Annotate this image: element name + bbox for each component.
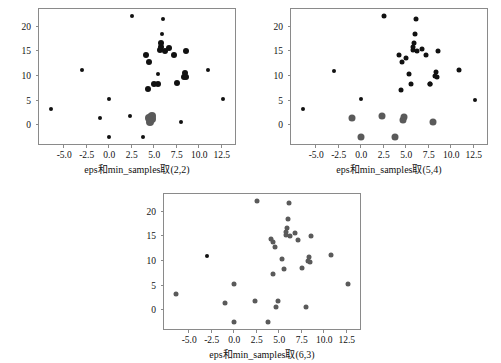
x-tick-label: 7.5 bbox=[296, 335, 308, 346]
y-tick-mark bbox=[161, 235, 164, 236]
panel-bottom-axes: -5.0-2.50.02.55.07.510.012.505101520 bbox=[163, 193, 361, 330]
data-point bbox=[401, 113, 408, 120]
y-tick-mark bbox=[161, 260, 164, 261]
data-point bbox=[276, 299, 281, 304]
data-point bbox=[408, 82, 413, 87]
x-tick-label: 5.0 bbox=[273, 335, 285, 346]
data-point bbox=[345, 281, 350, 286]
data-point bbox=[183, 48, 189, 54]
data-point bbox=[232, 320, 237, 325]
x-tick-mark bbox=[188, 330, 189, 333]
x-tick-label: 5.0 bbox=[148, 150, 160, 161]
x-tick-mark bbox=[323, 330, 324, 333]
x-tick-mark bbox=[256, 330, 257, 333]
panel-bottom-plot-area bbox=[164, 194, 360, 329]
x-tick-label: -5.0 bbox=[182, 335, 197, 346]
x-tick-label: -2.5 bbox=[79, 150, 94, 161]
data-point bbox=[254, 199, 259, 204]
data-point bbox=[206, 68, 210, 72]
x-tick-mark bbox=[233, 330, 234, 333]
y-tick-label: 5 bbox=[132, 280, 156, 291]
data-point bbox=[146, 59, 152, 65]
data-point bbox=[286, 216, 291, 221]
data-point bbox=[301, 107, 305, 111]
data-point bbox=[107, 97, 111, 101]
x-tick-mark bbox=[63, 145, 64, 148]
y-tick-mark bbox=[161, 285, 164, 286]
x-tick-mark bbox=[211, 330, 212, 333]
x-tick-mark bbox=[428, 145, 429, 148]
x-tick-mark bbox=[131, 145, 132, 148]
data-point bbox=[173, 292, 178, 297]
data-point bbox=[307, 260, 312, 265]
y-tick-mark bbox=[36, 100, 39, 101]
x-tick-label: 10.0 bbox=[443, 150, 460, 161]
data-point bbox=[358, 134, 365, 141]
y-tick-label: 20 bbox=[7, 21, 31, 32]
data-point bbox=[404, 56, 409, 61]
x-tick-mark bbox=[153, 145, 154, 148]
data-point bbox=[378, 113, 385, 120]
y-tick-label: 10 bbox=[259, 71, 283, 82]
figure-canvas: -5.0-2.50.02.55.07.510.012.505101520eps和… bbox=[0, 0, 501, 363]
y-tick-mark bbox=[161, 309, 164, 310]
x-tick-label: -2.5 bbox=[204, 335, 219, 346]
data-point bbox=[232, 281, 237, 286]
data-point bbox=[296, 237, 301, 242]
data-point bbox=[155, 81, 161, 87]
panel-top-left-plot-area bbox=[39, 9, 235, 144]
x-tick-mark bbox=[473, 145, 474, 148]
data-point bbox=[166, 45, 172, 51]
data-point bbox=[329, 252, 334, 257]
data-point bbox=[332, 69, 336, 73]
x-tick-mark bbox=[176, 145, 177, 148]
data-point bbox=[145, 114, 153, 122]
data-point bbox=[299, 266, 304, 271]
x-tick-label: 0.0 bbox=[228, 335, 240, 346]
x-tick-label: 12.5 bbox=[213, 150, 230, 161]
data-point bbox=[399, 60, 404, 65]
x-tick-label: 0.0 bbox=[355, 150, 367, 161]
x-tick-label: 0.0 bbox=[103, 150, 115, 161]
data-point bbox=[107, 135, 111, 139]
y-tick-label: 15 bbox=[7, 46, 31, 57]
data-point bbox=[179, 120, 183, 124]
data-point bbox=[413, 31, 418, 36]
y-tick-label: 0 bbox=[132, 305, 156, 316]
data-point bbox=[392, 133, 399, 140]
x-tick-label: -5.0 bbox=[57, 150, 72, 161]
x-tick-label: 10.0 bbox=[316, 335, 333, 346]
y-tick-mark bbox=[288, 100, 291, 101]
data-point bbox=[287, 200, 292, 205]
data-point bbox=[406, 72, 411, 77]
data-point bbox=[223, 301, 228, 306]
x-tick-mark bbox=[346, 330, 347, 333]
x-tick-mark bbox=[278, 330, 279, 333]
data-point bbox=[158, 40, 164, 46]
x-tick-mark bbox=[360, 145, 361, 148]
x-tick-mark bbox=[338, 145, 339, 148]
x-tick-label: 7.5 bbox=[423, 150, 435, 161]
x-tick-mark bbox=[108, 145, 109, 148]
data-point bbox=[161, 17, 165, 21]
data-point bbox=[430, 119, 437, 126]
x-tick-label: -2.5 bbox=[331, 150, 346, 161]
data-point bbox=[252, 299, 257, 304]
data-point bbox=[160, 32, 164, 36]
y-tick-label: 0 bbox=[7, 120, 31, 131]
x-tick-mark bbox=[198, 145, 199, 148]
data-point bbox=[359, 97, 363, 101]
data-point bbox=[292, 231, 297, 236]
x-tick-label: 12.5 bbox=[338, 335, 355, 346]
y-tick-mark bbox=[36, 124, 39, 125]
y-tick-mark bbox=[161, 211, 164, 212]
data-point bbox=[80, 68, 84, 72]
data-point bbox=[473, 98, 477, 102]
y-tick-mark bbox=[36, 75, 39, 76]
x-axis-label: eps和min_samples取(5,4) bbox=[250, 164, 501, 176]
data-point bbox=[130, 14, 134, 18]
data-point bbox=[141, 135, 145, 139]
data-point bbox=[49, 107, 53, 111]
data-point bbox=[424, 53, 429, 58]
x-tick-label: 5.0 bbox=[400, 150, 412, 161]
